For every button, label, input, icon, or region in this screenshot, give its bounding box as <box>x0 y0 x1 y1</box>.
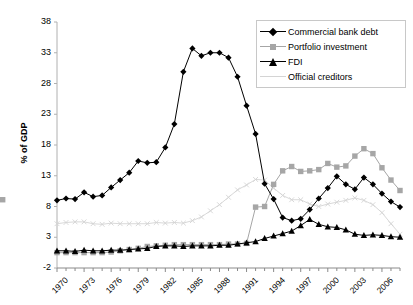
legend-item-fdi: FDI <box>260 54 401 69</box>
y-axis-tick-label: 33 <box>25 47 51 57</box>
series-fdi <box>54 216 403 254</box>
legend-key-diamond-icon <box>260 26 286 38</box>
y-axis-tick-label: 3 <box>25 231 51 241</box>
y-axis-tick-label: 28 <box>25 78 51 88</box>
legend-key-square-icon <box>260 41 286 53</box>
legend-label: Commercial bank debt <box>286 27 378 37</box>
chart-legend: Commercial bank debt Portfolio investmen… <box>256 20 406 88</box>
y-axis-tick-label: 18 <box>25 139 51 149</box>
y-axis-tick-label: 8 <box>25 201 51 211</box>
legend-label: Portfolio investment <box>286 42 367 52</box>
y-axis-tick-label: -2 <box>25 262 51 272</box>
legend-label: FDI <box>286 57 303 67</box>
y-axis-tick-label: 23 <box>25 108 51 118</box>
legend-item-official-creditors: Official creditors <box>260 69 401 84</box>
y-axis-tick-label: 38 <box>25 16 51 26</box>
legend-item-commercial-bank-debt: Commercial bank debt <box>260 24 401 39</box>
legend-key-x-icon <box>260 71 286 83</box>
legend-label: Official creditors <box>286 72 352 82</box>
legend-item-portfolio-investment: Portfolio investment <box>260 39 401 54</box>
series-official-creditors <box>55 177 403 237</box>
chart-container: % of GDP -238131823283338 19701973197619… <box>0 0 413 305</box>
y-axis-tick-label: 13 <box>25 170 51 180</box>
legend-key-triangle-icon <box>260 56 286 68</box>
